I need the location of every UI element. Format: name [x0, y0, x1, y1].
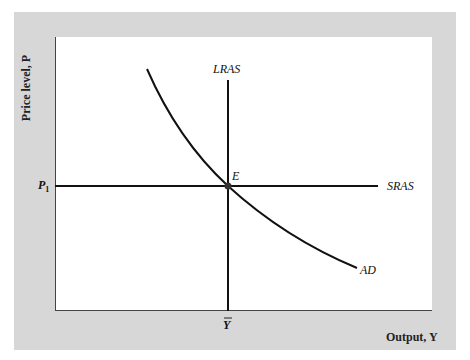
sras-label: SRAS	[387, 179, 414, 194]
p1-subscript: 1	[45, 185, 49, 194]
y-axis-label: Price level, P	[19, 8, 37, 168]
e-label: E	[232, 169, 239, 184]
ad-curve	[147, 69, 357, 268]
p1-tick-label: P1	[38, 178, 49, 194]
ybar-tick-label: Y	[223, 318, 230, 333]
equilibrium-point	[225, 183, 232, 190]
lras-label: LRAS	[213, 62, 240, 77]
x-axis-label: Output, Y	[386, 330, 438, 345]
ad-label: AD	[360, 263, 376, 278]
